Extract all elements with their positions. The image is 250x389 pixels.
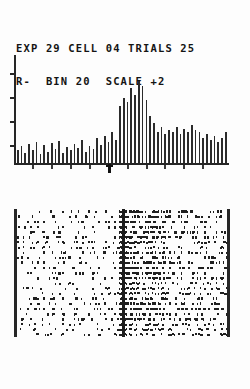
raster-spike (136, 298, 138, 300)
raster-spike (91, 241, 93, 243)
raster-spike (62, 318, 64, 320)
raster-spike (71, 221, 73, 223)
raster-spike (208, 241, 210, 243)
raster-spike (169, 251, 171, 253)
raster-spike (43, 246, 45, 248)
raster-spike (108, 226, 110, 228)
raster-spike (177, 236, 179, 238)
raster-spike (136, 313, 138, 315)
raster-spike (162, 324, 164, 326)
raster-spike (153, 288, 155, 290)
raster-spike (210, 293, 212, 295)
raster-spike (139, 292, 141, 294)
raster-spike (152, 241, 154, 243)
raster-spike (145, 226, 147, 228)
raster-spike (61, 251, 63, 253)
raster-spike (194, 272, 196, 274)
raster-spike (159, 303, 161, 305)
raster-spike (191, 262, 193, 264)
raster-spike (162, 313, 164, 315)
raster-spike (210, 283, 212, 285)
raster-spike (108, 246, 110, 248)
raster-spike (166, 298, 168, 300)
raster-spike (39, 211, 41, 213)
raster-spike (181, 288, 183, 290)
raster-spike (34, 328, 36, 330)
raster-spike (204, 272, 206, 274)
raster-spike (18, 226, 20, 228)
raster-spike (213, 211, 215, 213)
raster-spike (201, 216, 203, 218)
raster-spike (145, 211, 147, 213)
raster-spike (111, 277, 113, 279)
raster-spike (148, 267, 150, 269)
raster-spike (206, 221, 208, 223)
raster-spike (207, 293, 209, 295)
raster-spike (188, 313, 190, 315)
raster-spike (220, 215, 222, 217)
raster-spike (197, 318, 199, 320)
raster-spike (155, 282, 157, 284)
raster-spike (137, 251, 139, 253)
raster-spike (133, 226, 135, 228)
raster-spike (71, 210, 73, 212)
raster-spike (113, 262, 115, 264)
raster-spike (216, 216, 218, 218)
raster-spike (184, 298, 186, 300)
raster-spike (132, 293, 134, 295)
raster-spike (139, 216, 141, 218)
raster-spike (192, 334, 194, 336)
raster-spike (53, 215, 55, 217)
raster-spike (158, 323, 160, 325)
histogram-bar (51, 143, 53, 163)
raster-spike (166, 247, 168, 249)
raster-spike (148, 293, 150, 295)
raster-spike (190, 231, 192, 233)
raster-spike (204, 231, 206, 233)
raster-spike (142, 211, 144, 213)
raster-spike (98, 221, 100, 223)
raster-spike (163, 211, 165, 213)
raster-spike (159, 308, 161, 310)
raster-spike (59, 257, 61, 259)
raster-spike (226, 293, 228, 295)
raster-spike (207, 267, 209, 269)
raster-spike (177, 283, 179, 285)
raster-spike (30, 226, 32, 228)
raster-spike (66, 329, 68, 331)
raster-spike (92, 247, 94, 249)
raster-spike (140, 267, 142, 269)
raster-spike (76, 308, 78, 310)
raster-spike (201, 242, 203, 244)
raster-spike (74, 267, 76, 269)
raster-spike (75, 272, 77, 274)
raster-spike (114, 267, 116, 269)
raster-spike (143, 241, 145, 243)
raster-spike (79, 323, 81, 325)
raster-spike (97, 328, 99, 330)
raster-spike (82, 272, 84, 274)
raster-spike (179, 267, 181, 269)
raster-spike (181, 236, 183, 238)
histogram-bar (176, 127, 178, 163)
raster-spike (155, 302, 157, 304)
raster-spike (43, 261, 45, 263)
raster-spike (192, 236, 194, 238)
raster-spike (130, 302, 132, 304)
raster-spike (94, 251, 96, 253)
raster-spike (94, 241, 96, 243)
raster-spike (211, 303, 213, 305)
raster-spike (219, 252, 221, 254)
raster-spike (187, 215, 189, 217)
raster-spike (69, 256, 71, 258)
histogram-bar (104, 136, 106, 163)
histogram-bar (66, 147, 68, 163)
raster-spike (188, 287, 190, 289)
raster-spike (92, 297, 94, 299)
raster-spike (188, 324, 190, 326)
raster-spike (49, 277, 51, 279)
raster-spike (26, 313, 28, 315)
raster-spike (126, 298, 128, 300)
raster-spike (217, 313, 219, 315)
raster-spike (168, 231, 170, 233)
